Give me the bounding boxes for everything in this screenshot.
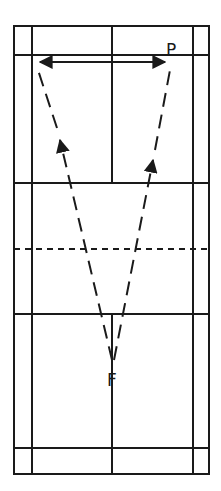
movement-arrows — [38, 62, 170, 360]
label-player-f: F — [107, 370, 117, 390]
left-shot-path-upper — [38, 70, 57, 128]
label-player-p: P — [166, 40, 176, 60]
right-shot-path-upper — [155, 70, 170, 150]
badminton-court-diagram: P F — [0, 0, 221, 491]
court-lines — [14, 26, 209, 474]
right-shot-path-lower — [114, 160, 153, 360]
